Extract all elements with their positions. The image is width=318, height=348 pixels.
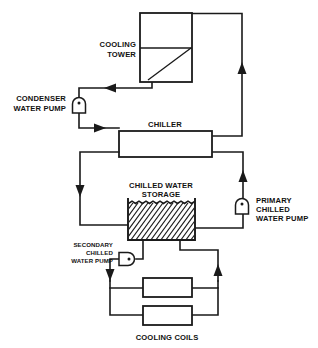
- storage-label-line2: STORAGE: [142, 190, 180, 199]
- condenser-water-pump-label-line1: CONDENSER: [16, 94, 66, 103]
- pipe-tower-to-chiller-condenser-in: [192, 14, 242, 137]
- primary-chilled-water-pump-label-line3: WATER PUMP: [256, 214, 308, 223]
- pipe-chiller-out-to-primary-pump: [213, 152, 243, 198]
- storage-return-piping: [80, 152, 128, 225]
- condenser-water-pump-label-line2: WATER PUMP: [14, 104, 66, 113]
- arrow-coil-supply-icon: [106, 269, 115, 281]
- chiller-body: [119, 131, 212, 157]
- arrow-tower-return-icon: [104, 84, 116, 93]
- cooling-coils-label: COOLING COILS: [136, 333, 199, 342]
- primary-chilled-water-piping: [195, 152, 243, 228]
- chilled-water-storage[interactable]: CHILLED WATER STORAGE: [100, 181, 233, 248]
- pipe-coil-return-to-storage: [180, 240, 218, 281]
- secondary-chilled-water-pump-label-line2: CHILLED: [86, 249, 114, 256]
- secondary-chilled-water-pump-shaft-dot: [128, 258, 131, 261]
- condenser-water-pump[interactable]: CONDENSER WATER PUMP: [14, 94, 86, 113]
- pipe-chiller-to-storage-left: [80, 152, 128, 225]
- cooling-coil-1[interactable]: [143, 278, 192, 297]
- pipe-coil-supply-header: [110, 281, 143, 315]
- cooling-coils[interactable]: COOLING COILS: [136, 278, 199, 342]
- hvac-schematic-diagram: COOLING TOWER CHILLER: [0, 0, 318, 348]
- secondary-chilled-water-pump[interactable]: SECONDARY CHILLED WATER PUMP: [71, 241, 134, 266]
- cooling-tower-label-line2: TOWER: [107, 50, 136, 59]
- cooling-tower-label-line1: COOLING: [100, 40, 137, 49]
- primary-chilled-water-pump-shaft-dot: [241, 203, 244, 206]
- diagram-canvas: COOLING TOWER CHILLER: [0, 0, 318, 348]
- pipe-storage-to-secondary-pump: [136, 240, 143, 259]
- secondary-chilled-water-pump-symbol: [119, 253, 135, 266]
- primary-chilled-water-pump-symbol: [236, 199, 249, 214]
- chiller-label: CHILLER: [148, 120, 182, 129]
- primary-chilled-water-pump[interactable]: PRIMARY CHILLED WATER PUMP: [236, 196, 309, 223]
- storage-label-line1: CHILLED WATER: [129, 181, 193, 190]
- arrow-secondary-supply-icon: [76, 185, 85, 197]
- arrow-primary-riser-icon: [239, 170, 248, 182]
- primary-chilled-water-pump-label-line2: CHILLED: [256, 205, 290, 214]
- secondary-chilled-water-pump-label-line1: SECONDARY: [73, 241, 113, 248]
- primary-chilled-water-pump-label-line1: PRIMARY: [256, 196, 292, 205]
- secondary-chilled-water-pump-label-line3: WATER PUMP: [71, 257, 113, 264]
- arrow-condenser-riser-icon: [238, 62, 247, 74]
- arrow-coil-return-icon: [214, 264, 223, 276]
- cooling-tower[interactable]: COOLING TOWER: [100, 13, 193, 82]
- pipe-coil1-return-branch: [192, 281, 218, 288]
- condenser-water-pump-shaft-dot: [78, 102, 81, 105]
- cooling-coil-2[interactable]: [143, 306, 192, 325]
- arrow-to-chiller-icon: [94, 124, 106, 133]
- condenser-water-pump-symbol: [73, 98, 86, 114]
- chiller[interactable]: CHILLER: [119, 120, 212, 157]
- pipe-primary-pump-to-storage: [195, 213, 243, 228]
- pipe-coil-return-header: [192, 288, 218, 315]
